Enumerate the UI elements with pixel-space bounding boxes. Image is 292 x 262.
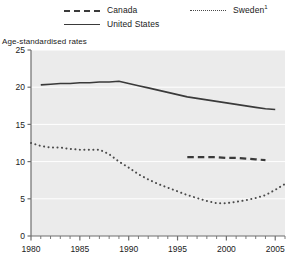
y-tick-label-10: 10 xyxy=(16,157,26,167)
x-tick-label-1990: 1990 xyxy=(119,244,138,254)
y-tick-label-25: 25 xyxy=(16,45,26,55)
y-tick-label-15: 15 xyxy=(16,120,26,130)
x-tick-label-1985: 1985 xyxy=(70,244,89,254)
x-tick-labels-group: 198019851990199520002005 xyxy=(22,244,285,254)
y-tick-labels-group: 0510152025 xyxy=(16,45,26,241)
x-tick-label-2000: 2000 xyxy=(217,244,236,254)
chart-plot: 0510152025 198019851990199520002005 xyxy=(0,0,292,262)
x-tick-label-2005: 2005 xyxy=(266,244,285,254)
y-tick-label-0: 0 xyxy=(20,231,25,241)
x-tick-label-1980: 1980 xyxy=(22,244,41,254)
y-tick-label-5: 5 xyxy=(20,194,25,204)
x-tick-label-1995: 1995 xyxy=(168,244,187,254)
plot-background xyxy=(31,50,285,236)
chart-figure: Canada United States Sweden1 Age-standar… xyxy=(0,0,292,262)
plot-area-wrapper: 0510152025 198019851990199520002005 xyxy=(0,0,292,262)
plot-background-group xyxy=(31,50,285,236)
y-tick-label-20: 20 xyxy=(16,82,26,92)
